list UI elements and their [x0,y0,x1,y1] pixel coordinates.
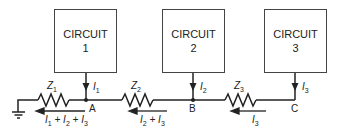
arrow-left-icon [36,108,44,114]
impedance-z2-label: Z2 [131,80,141,93]
circuit-2-title: CIRCUIT [171,27,216,41]
circuit-3-box: CIRCUIT 3 [264,9,327,73]
circuit-2-number: 2 [190,41,196,55]
resistor-z2-icon [122,94,153,106]
circuit-1-title: CIRCUIT [63,27,108,41]
arrow-down-icon [190,83,197,91]
circuit-3-number: 3 [292,41,298,55]
node-b-label: B [189,103,196,114]
branch-current-c-label: I3 [252,114,259,127]
impedance-z3-label: Z3 [234,80,244,93]
resistor-z3-icon [225,94,256,106]
impedance-z1-label: Z1 [47,80,57,93]
node-c-label: C [291,103,298,114]
circuit-1-box: CIRCUIT 1 [54,9,117,73]
arrow-left-icon [231,108,239,114]
circuit-2-box: CIRCUIT 2 [162,9,225,73]
arrow-down-icon [83,83,90,91]
current-i2-label: I2 [200,81,207,94]
resistor-z1-icon [38,94,69,106]
circuit-diagram: CIRCUIT 1 CIRCUIT 2 CIRCUIT 3 I1 I2 I3 Z… [0,0,338,132]
current-i1-label: I1 [93,81,100,94]
arrow-left-icon [129,108,137,114]
current-i3-label: I3 [302,81,309,94]
circuit-3-title: CIRCUIT [273,27,318,41]
branch-current-b-label: I2 + I3 [140,114,165,127]
circuit-1-number: 1 [82,41,88,55]
arrow-down-icon [292,83,299,91]
ground-wire [18,100,38,112]
branch-current-a-label: I1 + I2 + I3 [45,114,88,127]
node-a-label: A [89,103,96,114]
